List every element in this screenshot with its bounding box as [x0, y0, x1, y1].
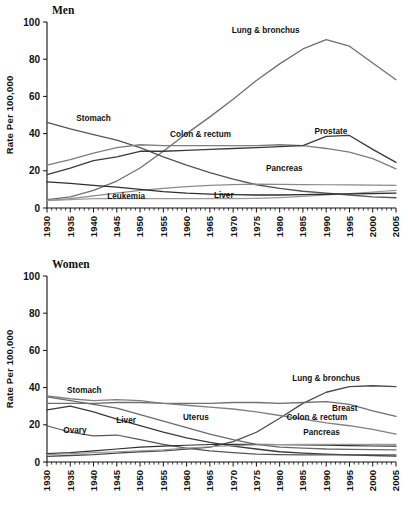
- x-axis-ticks: 1930193519401945195019551960196519701975…: [41, 215, 401, 237]
- y-tick-label: 60: [29, 345, 41, 356]
- x-tick-label: 1975: [251, 469, 262, 491]
- x-tick-label: 2005: [390, 215, 401, 237]
- x-tick-label: 1935: [65, 215, 76, 237]
- series-label-breast: Breast: [332, 404, 358, 413]
- series-label-liver: Liver: [116, 416, 136, 425]
- x-tick-label: 1955: [158, 215, 169, 237]
- y-tick-label: 80: [29, 54, 41, 65]
- line-chart-svg: MenRate Per 100,000020406080100193019351…: [0, 0, 408, 253]
- panel-title: Women: [52, 258, 90, 270]
- y-axis-ticks: 020406080100: [23, 271, 47, 468]
- x-tick-label: 1950: [134, 470, 145, 491]
- x-tick-label: 1935: [65, 469, 76, 491]
- axes: [47, 276, 396, 462]
- series-label-stomach: Stomach: [76, 114, 111, 123]
- x-axis-minor-ticks: [47, 208, 396, 213]
- series-label-stomach: Stomach: [67, 386, 102, 395]
- cancer-death-rate-figure: MenRate Per 100,000020406080100193019351…: [0, 0, 408, 507]
- x-tick-label: 1945: [111, 215, 122, 237]
- series-label-leukemia: Leukemia: [107, 192, 145, 201]
- x-tick-label: 1940: [88, 470, 99, 491]
- x-tick-label: 1990: [321, 216, 332, 237]
- series-label-colon-rectum: Colon & rectum: [170, 130, 231, 139]
- series-label-pancreas: Pancreas: [266, 164, 303, 173]
- x-tick-label: 1970: [228, 470, 239, 491]
- x-tick-label: 1985: [297, 469, 308, 491]
- series-label-lung-bronchus: Lung & bronchus: [292, 374, 360, 383]
- y-tick-label: 0: [34, 457, 40, 468]
- x-axis-ticks: 1930193519401945195019551960196519701975…: [41, 469, 401, 491]
- x-tick-label: 1970: [228, 216, 239, 237]
- x-tick-label: 1930: [41, 470, 52, 491]
- series-label-prostate: Prostate: [314, 127, 347, 136]
- x-tick-label: 1995: [344, 469, 355, 491]
- y-tick-label: 80: [29, 308, 41, 319]
- x-tick-label: 1975: [251, 215, 262, 237]
- x-tick-label: 2005: [390, 469, 401, 491]
- x-tick-label: 1990: [321, 470, 332, 491]
- y-tick-label: 20: [29, 419, 41, 430]
- x-tick-label: 1965: [204, 215, 215, 237]
- x-tick-label: 1980: [274, 470, 285, 491]
- y-tick-label: 100: [23, 17, 40, 28]
- x-tick-label: 1940: [88, 216, 99, 237]
- series-label-uterus: Uterus: [183, 413, 209, 422]
- line-chart-svg: WomenRate Per 100,0000204060801001930193…: [0, 254, 408, 507]
- series-label-lung-bronchus: Lung & bronchus: [232, 26, 300, 35]
- y-axis-label: Rate Per 100,000: [4, 330, 15, 409]
- x-tick-label: 2000: [367, 470, 378, 491]
- x-tick-label: 1985: [297, 215, 308, 237]
- y-tick-label: 20: [29, 165, 41, 176]
- x-axis-minor-ticks: [47, 462, 396, 467]
- x-tick-label: 2000: [367, 216, 378, 237]
- chart-panel-women: WomenRate Per 100,0000204060801001930193…: [0, 254, 408, 507]
- y-tick-label: 40: [29, 382, 41, 393]
- x-tick-label: 1995: [344, 215, 355, 237]
- series-line-prostate: [47, 135, 396, 174]
- chart-panel-men: MenRate Per 100,000020406080100193019351…: [0, 0, 408, 253]
- panel-title: Men: [52, 4, 75, 16]
- series-label-ovary: Ovary: [63, 426, 87, 435]
- y-tick-label: 60: [29, 91, 41, 102]
- y-tick-label: 40: [29, 128, 41, 139]
- y-tick-label: 0: [34, 203, 40, 214]
- x-tick-label: 1960: [181, 470, 192, 491]
- series-label-colon-rectum: Colon & rectum: [286, 413, 347, 422]
- series-label-pancreas: Pancreas: [303, 428, 340, 437]
- x-tick-label: 1960: [181, 216, 192, 237]
- x-tick-label: 1955: [158, 469, 169, 491]
- x-tick-label: 1930: [41, 216, 52, 237]
- x-tick-label: 1950: [134, 216, 145, 237]
- x-tick-label: 1945: [111, 469, 122, 491]
- y-axis-label: Rate Per 100,000: [4, 76, 15, 155]
- y-tick-label: 100: [23, 271, 40, 282]
- x-tick-label: 1980: [274, 216, 285, 237]
- x-tick-label: 1965: [204, 469, 215, 491]
- series-labels: Lung & bronchusBreastColon & rectumStoma…: [63, 374, 360, 437]
- series-labels: Lung & bronchusStomachColon & rectumPros…: [76, 26, 347, 201]
- series-label-liver: Liver: [214, 191, 234, 200]
- y-axis-ticks: 020406080100: [23, 17, 47, 214]
